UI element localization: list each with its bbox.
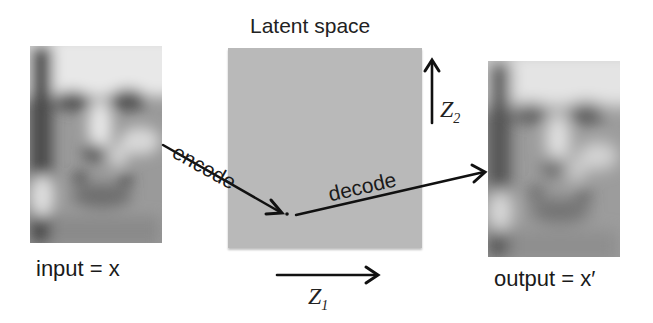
z1-symbol: Z	[308, 283, 321, 309]
z2-subscript: 2	[453, 111, 460, 126]
z1-axis-arrow-icon	[277, 267, 378, 283]
z2-axis-label: Z2	[440, 96, 460, 127]
latent-point-icon	[285, 212, 289, 216]
z2-symbol: Z	[440, 96, 453, 122]
z1-axis-label: Z1	[308, 283, 328, 314]
arrows-layer	[0, 0, 653, 323]
z2-axis-arrow-icon	[425, 60, 439, 123]
z1-subscript: 1	[321, 298, 328, 313]
